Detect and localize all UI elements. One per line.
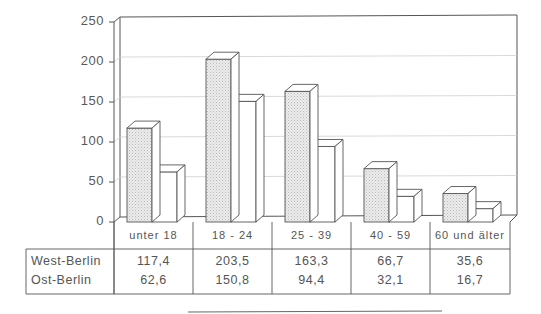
y-tick-label: 250	[64, 13, 104, 28]
axes	[109, 17, 120, 222]
table-cell: 163,3	[272, 252, 351, 271]
table-row-label: West-Berlin	[31, 252, 101, 271]
category-label: 60 und älter	[430, 229, 510, 241]
table-cell: 32,1	[351, 271, 430, 290]
table-cell: 94,4	[272, 271, 351, 290]
y-tick-label: 100	[64, 133, 104, 148]
table-cell: 117,4	[114, 252, 193, 271]
category-label: 40 - 59	[351, 229, 430, 241]
category-label: unter 18	[114, 229, 193, 241]
y-tick-label: 200	[64, 53, 104, 68]
category-label: 25 - 39	[272, 229, 351, 241]
category-label: 18 - 24	[193, 229, 272, 241]
bar-west-berlin	[285, 84, 318, 222]
bar-west-berlin	[206, 52, 239, 222]
table-cell: 203,5	[193, 252, 272, 271]
table-cell: 62,6	[114, 271, 193, 290]
table-cell: 150,8	[193, 271, 272, 290]
table-cell: 66,7	[351, 252, 430, 271]
table-cell: 16,7	[430, 271, 510, 290]
table-row-label: Ost-Berlin	[31, 271, 92, 290]
table-cell: 35,6	[430, 252, 510, 271]
bar-west-berlin	[364, 162, 397, 222]
bar-west-berlin	[127, 121, 160, 222]
y-tick-label: 50	[64, 173, 104, 188]
bar-west-berlin	[443, 187, 476, 222]
y-tick-label: 150	[64, 93, 104, 108]
y-tick-label: 0	[64, 213, 104, 228]
